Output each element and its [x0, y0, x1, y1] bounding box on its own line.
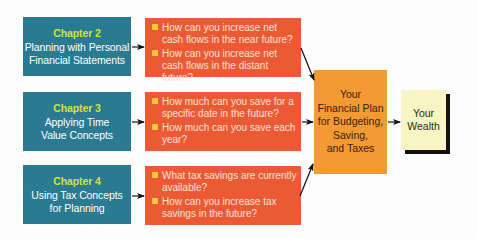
square-bullet-icon: [152, 124, 158, 130]
chapter-3-questions-box: How much can you save for a specific dat…: [145, 92, 301, 151]
wealth-line-1: Your: [407, 107, 440, 121]
question-text: How can you increase net cash flows in t…: [162, 22, 293, 45]
plan-line-4: Saving,: [318, 129, 384, 143]
wealth-line-2: Wealth: [407, 120, 440, 134]
arrow-icon: [300, 164, 313, 196]
chapter-2-questions-box: How can you increase net cash flows in t…: [145, 18, 301, 77]
chapter-4-line-2: for Planning: [50, 202, 105, 215]
your-wealth-box: Your Wealth: [401, 90, 446, 150]
chapter-3-box: Chapter 3 Applying Time Value Concepts: [23, 92, 131, 151]
plan-line-1: Your: [318, 88, 384, 102]
question-text: How can you increase tax savings in the …: [162, 196, 277, 219]
question-item: How much can you save for a specific dat…: [152, 96, 297, 121]
square-bullet-icon: [152, 98, 158, 104]
question-item: How much can you save each year?: [152, 122, 297, 147]
chapter-3-line-1: Applying Time: [45, 116, 110, 129]
plan-line-2: Financial Plan: [318, 102, 384, 116]
question-item: What tax savings are currently available…: [152, 170, 297, 195]
question-text: What tax savings are currently available…: [162, 170, 297, 193]
question-text: How can you increase net cash flows in t…: [162, 48, 277, 84]
chapter-2-line-2: Financial Statements: [29, 54, 125, 67]
square-bullet-icon: [152, 198, 158, 204]
question-item: How can you increase net cash flows in t…: [152, 48, 297, 85]
chapter-3-title: Chapter 3: [53, 102, 101, 115]
arrow-icon: [301, 48, 314, 80]
chapter-4-box: Chapter 4 Using Tax Concepts for Plannin…: [23, 165, 131, 224]
chapter-4-title: Chapter 4: [53, 175, 101, 188]
square-bullet-icon: [152, 50, 158, 56]
chapter-4-line-1: Using Tax Concepts: [31, 189, 122, 202]
plan-line-3: for Budgeting,: [318, 115, 384, 129]
question-item: How can you increase net cash flows in t…: [152, 22, 297, 47]
chapter-2-line-1: Planning with Personal: [25, 41, 130, 54]
question-item: How can you increase tax savings in the …: [152, 196, 297, 221]
chapter-2-box: Chapter 2 Planning with Personal Financi…: [23, 17, 131, 76]
square-bullet-icon: [152, 172, 158, 178]
chapter-4-questions-box: What tax savings are currently available…: [145, 166, 301, 225]
financial-plan-box: Your Financial Plan for Budgeting, Savin…: [314, 70, 387, 174]
question-text: How much can you save for a specific dat…: [162, 96, 294, 119]
plan-line-5: and Taxes: [318, 142, 384, 156]
chapter-2-title: Chapter 2: [53, 27, 101, 40]
question-text: How much can you save each year?: [162, 122, 295, 145]
chapter-3-line-2: Value Concepts: [41, 129, 113, 142]
square-bullet-icon: [152, 24, 158, 30]
